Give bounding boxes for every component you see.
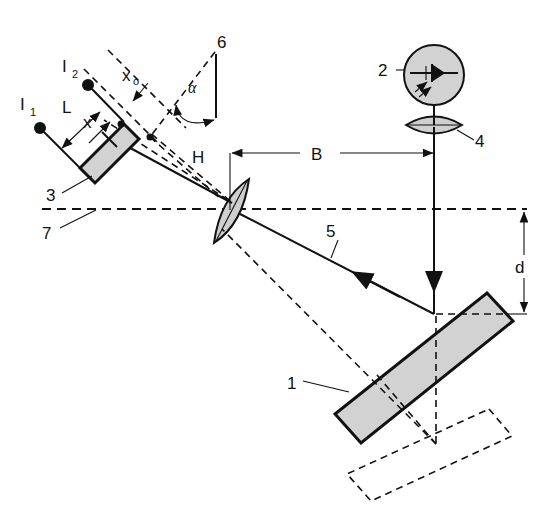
label-3: 3: [46, 186, 55, 205]
label-H: H: [192, 148, 204, 167]
target-plate-1: [335, 293, 513, 443]
ray-lens-to-detector-dashed-2: [148, 131, 230, 201]
leader-line-1: [303, 381, 349, 392]
label-2: 2: [378, 61, 387, 80]
target-plate-1-body: [335, 293, 513, 443]
angle-alpha-arc: [176, 105, 214, 123]
label-d: d: [515, 258, 524, 277]
label-L: L: [62, 98, 71, 117]
leader-line-5: [331, 240, 338, 258]
return-ray-5: [240, 214, 434, 314]
angle-ref-dashed-to-lens: [150, 137, 222, 200]
dim-L-arrow: [62, 112, 100, 148]
leader-line-3: [62, 176, 92, 193]
label-7: 7: [42, 224, 51, 243]
label-x0-sub: o: [133, 75, 139, 87]
label-5: 5: [326, 222, 335, 241]
angle-ref-dashed-left: [150, 52, 215, 137]
optical-diagram-canvas: 7 1 2 4 H B: [0, 0, 554, 523]
return-ray-dashed-lower: [222, 229, 436, 444]
label-x0: x: [122, 66, 131, 85]
label-I2-sub: 2: [72, 68, 78, 80]
label-1: 1: [287, 374, 296, 393]
label-I1-sub: 1: [30, 106, 36, 118]
imaging-lens-axis: [216, 181, 247, 241]
label-4: 4: [475, 132, 484, 151]
label-I1: I: [20, 95, 25, 114]
ray-from-I1: [44, 132, 92, 180]
intersection-dot-1: [118, 121, 125, 128]
ray-from-I2: [92, 89, 124, 122]
imaging-lens-H: [214, 179, 249, 243]
leader-line-4: [457, 130, 474, 140]
return-ray-5-arrowhead: [360, 276, 400, 297]
detector-array-3-plate: [80, 124, 139, 183]
optical-diagram-figure: 7 1 2 4 H B: [0, 0, 554, 523]
label-alpha: α: [188, 79, 197, 96]
detector-array-3: [80, 124, 139, 183]
label-B: B: [311, 145, 322, 164]
laser-diode-2: [404, 45, 464, 105]
leader-line-7: [60, 210, 96, 228]
label-I2: I: [62, 57, 67, 76]
label-x: x: [83, 113, 92, 132]
label-6: 6: [217, 33, 226, 52]
